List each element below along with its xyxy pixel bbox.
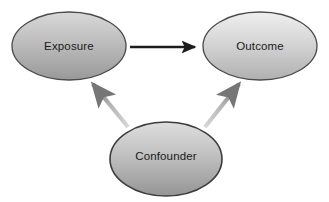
node-outcome[interactable]: Outcome [203,12,317,80]
causal-dag-svg: Exposure Outcome Confounder [0,0,329,202]
node-outcome-label: Outcome [236,40,284,52]
edge-confounder-to-outcome [205,84,239,127]
arrow-confounder-exposure [93,84,128,127]
edge-confounder-to-exposure [93,84,128,127]
node-confounder-label: Confounder [135,150,197,162]
arrow-confounder-outcome [205,84,239,127]
node-exposure-label: Exposure [44,40,94,52]
causal-diagram-canvas: Exposure Outcome Confounder [0,0,329,202]
node-exposure[interactable]: Exposure [12,12,126,80]
node-confounder[interactable]: Confounder [110,122,222,196]
